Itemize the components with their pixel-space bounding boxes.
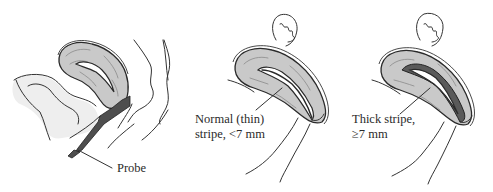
ovary <box>273 14 298 46</box>
panel-thin-stripe <box>159 14 328 182</box>
fimbriae <box>280 24 295 42</box>
sacrum-outline <box>142 40 168 140</box>
vagina-line-2 <box>428 126 456 184</box>
probe-label: Probe <box>117 161 146 176</box>
thick-stripe-label-line2: ≥7 mm <box>352 127 388 142</box>
diagram-canvas <box>0 0 493 192</box>
vagina-line-2 <box>280 124 310 182</box>
probe-leader-line <box>78 150 112 168</box>
thin-stripe-label-line1: Normal (thin) <box>195 112 264 127</box>
rectum-outline <box>128 40 153 122</box>
thin-stripe-label-line2: stripe, <7 mm <box>195 127 265 142</box>
panel-probe-placement <box>13 40 168 168</box>
fimbriae <box>424 24 439 42</box>
ovary <box>417 13 444 46</box>
thick-stripe-label-line1: Thick stripe, <box>352 112 415 127</box>
probe-handle <box>68 150 80 158</box>
panel-thick-stripe <box>372 13 475 184</box>
left-tissue-outline <box>159 40 169 124</box>
